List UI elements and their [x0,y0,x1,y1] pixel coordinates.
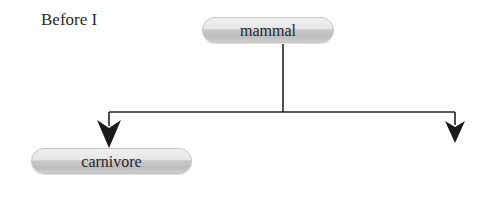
node-carnivore-label: carnivore [81,153,141,171]
node-carnivore[interactable]: carnivore [31,148,192,174]
connector-lines [0,0,484,206]
